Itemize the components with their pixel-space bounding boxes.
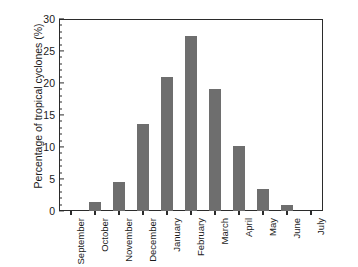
y-tick-label: 30 bbox=[15, 13, 55, 25]
y-minor-tick-mark bbox=[59, 185, 62, 186]
x-tick-mark bbox=[238, 211, 239, 215]
x-tick-mark bbox=[118, 211, 119, 215]
y-tick-mark bbox=[59, 50, 64, 51]
x-tick-label: December bbox=[147, 218, 158, 262]
x-tick-label: January bbox=[171, 218, 182, 252]
y-minor-tick-mark bbox=[59, 159, 62, 160]
x-tick-label: October bbox=[99, 218, 110, 252]
y-tick-mark bbox=[59, 178, 64, 179]
y-tick-label: 5 bbox=[15, 173, 55, 185]
y-minor-tick-mark bbox=[59, 191, 62, 192]
x-tick-mark bbox=[70, 211, 71, 215]
y-minor-tick-mark bbox=[59, 172, 62, 173]
y-minor-tick-mark bbox=[59, 31, 62, 32]
y-tick-label: 0 bbox=[15, 205, 55, 217]
y-minor-tick-mark bbox=[59, 70, 62, 71]
y-minor-tick-mark bbox=[59, 166, 62, 167]
x-tick-label: February bbox=[195, 218, 206, 256]
x-tick-mark bbox=[262, 211, 263, 215]
x-tick-mark bbox=[214, 211, 215, 215]
y-minor-tick-mark bbox=[59, 25, 62, 26]
y-tick-label: 15 bbox=[15, 109, 55, 121]
x-tick-mark bbox=[166, 211, 167, 215]
x-tick-label: May bbox=[267, 218, 278, 236]
x-tick-label: June bbox=[291, 218, 302, 239]
y-tick-label: 20 bbox=[15, 77, 55, 89]
y-tick-label: 25 bbox=[15, 45, 55, 57]
x-tick-mark bbox=[310, 211, 311, 215]
x-tick-label: July bbox=[315, 218, 326, 235]
y-tick-label: 10 bbox=[15, 141, 55, 153]
y-minor-tick-mark bbox=[59, 134, 62, 135]
y-minor-tick-mark bbox=[59, 108, 62, 109]
y-minor-tick-mark bbox=[59, 153, 62, 154]
y-minor-tick-mark bbox=[59, 89, 62, 90]
y-minor-tick-mark bbox=[59, 204, 62, 205]
y-minor-tick-mark bbox=[59, 127, 62, 128]
y-minor-tick-mark bbox=[59, 44, 62, 45]
bar-chart: Percentage of tropical cyclones (%) 0510… bbox=[0, 0, 358, 267]
y-minor-tick-mark bbox=[59, 76, 62, 77]
y-minor-tick-mark bbox=[59, 95, 62, 96]
y-minor-tick-mark bbox=[59, 121, 62, 122]
y-tick-mark bbox=[59, 114, 64, 115]
y-minor-tick-mark bbox=[59, 57, 62, 58]
x-tick-label: September bbox=[75, 218, 86, 264]
y-minor-tick-mark bbox=[59, 140, 62, 141]
x-tick-mark bbox=[190, 211, 191, 215]
y-tick-mark bbox=[59, 18, 64, 19]
plot-area bbox=[59, 19, 323, 211]
x-tick-label: April bbox=[243, 218, 254, 237]
x-tick-mark bbox=[94, 211, 95, 215]
y-tick-mark bbox=[59, 82, 64, 83]
x-tick-label: November bbox=[123, 218, 134, 262]
x-tick-label: March bbox=[219, 218, 230, 244]
y-minor-tick-mark bbox=[59, 102, 62, 103]
y-minor-tick-mark bbox=[59, 198, 62, 199]
y-tick-mark bbox=[59, 210, 64, 211]
x-tick-mark bbox=[286, 211, 287, 215]
x-tick-mark bbox=[142, 211, 143, 215]
y-minor-tick-mark bbox=[59, 38, 62, 39]
y-tick-mark bbox=[59, 146, 64, 147]
y-minor-tick-mark bbox=[59, 63, 62, 64]
